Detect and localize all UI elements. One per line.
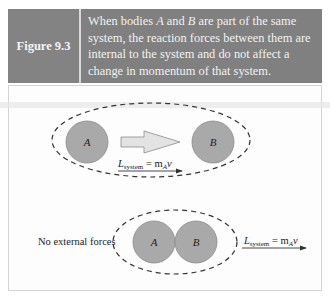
force-arrow: [121, 131, 180, 153]
diagram-svg: A B Lsystem = mAv No external forces A B…: [0, 0, 330, 299]
no-external-forces-label: No external forces: [38, 236, 116, 247]
top-system: A B Lsystem = mAv: [52, 103, 250, 177]
body-b-label: B: [210, 136, 217, 148]
momentum-label: Lsystem = mAv: [243, 235, 298, 248]
body-a-label: A: [150, 236, 158, 248]
momentum-label: Lsystem = mAv: [117, 158, 172, 171]
bottom-system: No external forces A B Lsystem = mAv: [38, 210, 306, 274]
body-b-label: B: [193, 236, 200, 248]
body-a-label: A: [83, 136, 91, 148]
